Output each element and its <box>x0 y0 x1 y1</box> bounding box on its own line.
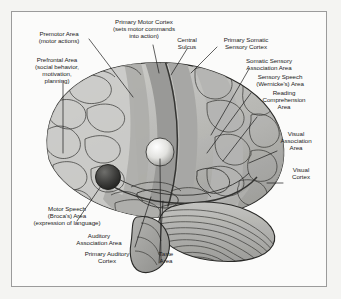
cerebrum <box>37 51 297 226</box>
brain-illustration <box>11 11 327 287</box>
cerebellum <box>155 202 277 271</box>
broca-area-sphere <box>96 165 121 190</box>
brain-anatomy-figure: Premotor Area (motor actions) Prefrontal… <box>0 0 341 299</box>
